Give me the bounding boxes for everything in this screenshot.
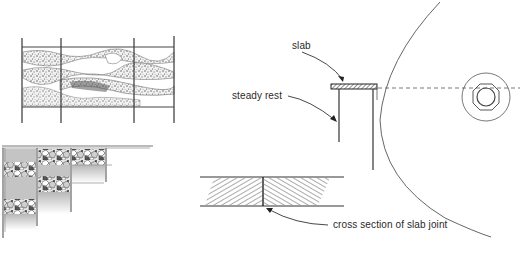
slab-on-steady-rest xyxy=(288,52,377,170)
stepped-mosaic-corner xyxy=(2,146,153,238)
slab-joint-section xyxy=(200,177,344,225)
label-slab: slab xyxy=(292,40,311,51)
saw-blade-side-view xyxy=(378,2,520,237)
diagram-canvas xyxy=(0,0,523,255)
label-steady-rest: steady rest xyxy=(232,90,282,101)
flange-circle xyxy=(462,73,510,121)
mosaic-panel-top-left xyxy=(22,36,174,123)
slab-bar xyxy=(331,84,377,89)
label-cross-section: cross section of slab joint xyxy=(333,219,447,230)
